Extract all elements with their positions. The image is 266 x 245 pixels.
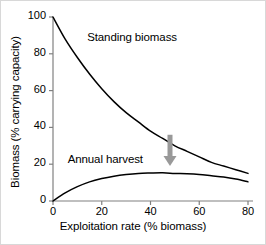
y-tick-label: 60 bbox=[16, 83, 46, 95]
x-tick-label: 20 bbox=[87, 205, 117, 217]
x-tick-label: 40 bbox=[136, 205, 166, 217]
y-tick-label: 0 bbox=[16, 193, 46, 205]
series-label-standing-biomass: Standing biomass bbox=[87, 31, 177, 43]
series-label-annual-harvest: Annual harvest bbox=[68, 153, 143, 165]
y-tick-label: 80 bbox=[16, 46, 46, 58]
x-axis-title: Exploitation rate (% biomass) bbox=[1, 220, 265, 232]
x-tick-label: 80 bbox=[233, 205, 263, 217]
chart-figure: Standing biomass Annual harvest Exploita… bbox=[0, 0, 266, 245]
arrow-head bbox=[164, 156, 177, 166]
x-tick-label: 60 bbox=[184, 205, 214, 217]
y-tick-label: 100 bbox=[16, 9, 46, 21]
y-tick-label: 40 bbox=[16, 119, 46, 131]
x-tick-label: 0 bbox=[38, 205, 68, 217]
y-tick-label: 20 bbox=[16, 156, 46, 168]
series-line-annual-harvest bbox=[53, 173, 248, 201]
